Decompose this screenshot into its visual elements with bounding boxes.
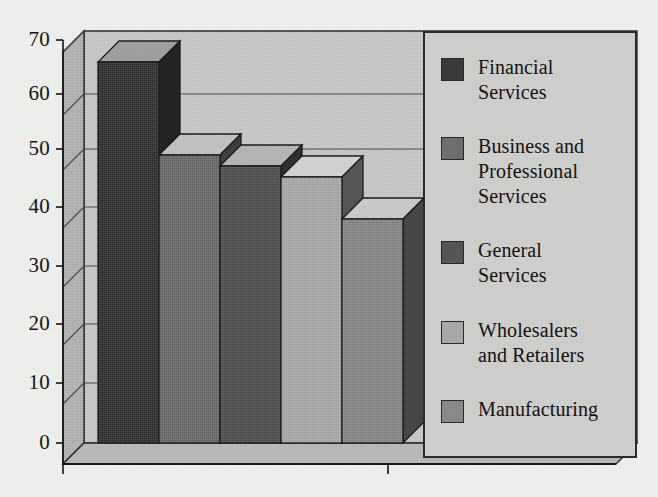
y-tick-30: 30: [4, 255, 50, 276]
legend-label-business-professional-services: Business and Professional Services: [478, 134, 584, 209]
y-tick-0: 0: [4, 432, 50, 453]
y-tick-70: 70: [4, 29, 50, 50]
y-tick-40: 40: [4, 196, 50, 217]
legend-item-manufacturing: Manufacturing: [441, 397, 598, 423]
y-axis: [56, 40, 63, 464]
legend-item-business-professional-services: Business and Professional Services: [441, 134, 584, 209]
legend-swatch-financial-services: [441, 58, 464, 81]
legend-label-wholesalers-retailers: Wholesalers and Retailers: [478, 318, 584, 368]
legend-label-financial-services: Financial Services: [478, 55, 553, 105]
bar-chart-figure: 70 60 50 40 30 20 10 0 Financial Service…: [0, 0, 658, 497]
y-tick-10: 10: [4, 372, 50, 393]
legend-label-manufacturing: Manufacturing: [478, 397, 598, 422]
plot-left-wall: [63, 31, 84, 464]
y-tick-20: 20: [4, 313, 50, 334]
legend-swatch-manufacturing: [441, 400, 464, 423]
legend-item-wholesalers-retailers: Wholesalers and Retailers: [441, 318, 584, 368]
chart-legend: Financial Services Business and Professi…: [423, 31, 637, 458]
legend-item-financial-services: Financial Services: [441, 55, 553, 105]
legend-swatch-wholesalers-retailers: [441, 321, 464, 344]
y-tick-60: 60: [4, 83, 50, 104]
legend-swatch-general-services: [441, 241, 464, 264]
legend-label-general-services: General Services: [478, 238, 547, 288]
x-axis: [63, 464, 616, 474]
legend-item-general-services: General Services: [441, 238, 547, 288]
legend-swatch-business-professional-services: [441, 137, 464, 160]
bar-manufacturing: [342, 198, 424, 443]
y-tick-50: 50: [4, 138, 50, 159]
